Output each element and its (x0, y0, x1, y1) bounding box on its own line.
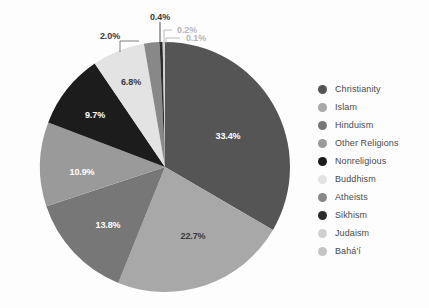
legend-item[interactable]: Christianity (318, 80, 429, 98)
legend-item-label: Judaism (335, 228, 369, 238)
legend-swatch-icon (318, 121, 327, 130)
legend-swatch-icon (318, 85, 327, 94)
legend-item[interactable]: Sikhism (318, 206, 429, 224)
legend-item-label: Buddhism (335, 174, 376, 184)
slice-label-christianity: 33.4% (215, 131, 240, 141)
pie-chart-figure: 33.4% 22.7% 13.8% 10.9% 9.7% 6.8% 2.0% 0… (0, 0, 429, 308)
legend-item[interactable]: Atheists (318, 188, 429, 206)
legend-swatch-icon (318, 247, 327, 256)
legend-swatch-icon (318, 139, 327, 148)
legend-item-label: Nonreligious (335, 156, 386, 166)
legend-swatch-icon (318, 175, 327, 184)
slice-label-hinduism: 13.8% (95, 220, 120, 230)
legend-swatch-icon (318, 229, 327, 238)
legend: ChristianityIslamHinduismOther Religions… (318, 80, 429, 260)
pie-plot-area: 33.4% 22.7% 13.8% 10.9% 9.7% 6.8% 2.0% 0… (0, 0, 310, 308)
legend-item-label: Atheists (335, 192, 368, 202)
slice-label-bahai: 0.1% (186, 33, 206, 43)
legend-swatch-icon (318, 103, 327, 112)
pie-svg (0, 0, 310, 308)
slice-label-nonreligious: 9.7% (85, 110, 105, 120)
legend-swatch-icon (318, 193, 327, 202)
slice-label-islam: 22.7% (180, 231, 205, 241)
slice-label-atheists: 2.0% (100, 31, 120, 41)
legend-item-label: Other Religions (335, 138, 399, 148)
slice-label-other-religions: 10.9% (69, 167, 94, 177)
legend-swatch-icon (318, 157, 327, 166)
legend-item[interactable]: Hinduism (318, 116, 429, 134)
legend-item-label: Hinduism (335, 120, 373, 130)
legend-swatch-icon (318, 211, 327, 220)
slice-label-buddhism: 6.8% (121, 77, 141, 87)
legend-item[interactable]: Other Religions (318, 134, 429, 152)
legend-item[interactable]: Bahá'í (318, 242, 429, 260)
slice-label-sikhism: 0.4% (150, 12, 170, 22)
legend-item[interactable]: Buddhism (318, 170, 429, 188)
legend-item-label: Christianity (335, 84, 381, 94)
legend-item-label: Sikhism (335, 210, 367, 220)
legend-item[interactable]: Islam (318, 98, 429, 116)
legend-item[interactable]: Judaism (318, 224, 429, 242)
legend-item-label: Bahá'í (335, 246, 361, 256)
legend-item-label: Islam (335, 102, 357, 112)
leader-line-judaism (164, 30, 172, 43)
legend-item[interactable]: Nonreligious (318, 152, 429, 170)
